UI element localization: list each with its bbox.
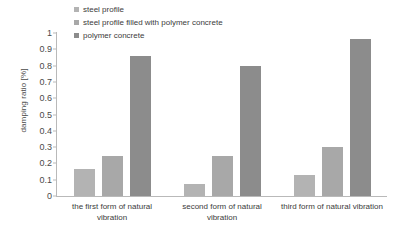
- legend-swatch-icon: [74, 7, 79, 12]
- bar: [212, 156, 233, 196]
- bar-group: [57, 33, 167, 196]
- bar: [74, 169, 95, 196]
- bar-chart: damping ratio [%] 10.90.80.70.60.50.40.3…: [0, 0, 394, 237]
- x-tick-label: third form of natural vibration: [277, 201, 387, 235]
- x-axis-line: [56, 196, 387, 197]
- legend-swatch-icon: [74, 33, 79, 38]
- x-tick-label: second form of natural vibration: [167, 201, 277, 235]
- bar-group: [277, 33, 387, 196]
- y-tick-label: 0.7: [39, 77, 52, 87]
- bar: [184, 184, 205, 196]
- y-axis-title: damping ratio [%]: [19, 26, 28, 176]
- y-tick-label: 0.8: [39, 61, 52, 71]
- y-tick-label: 0.4: [39, 126, 52, 136]
- bar: [102, 156, 123, 196]
- y-tick-label: 0: [47, 191, 52, 201]
- y-tick-label: 1: [47, 28, 52, 38]
- legend-label: steel profile filled with polymer concre…: [83, 18, 223, 27]
- x-tick-label: the first form of natural vibration: [57, 201, 167, 235]
- y-tick-label: 0.5: [39, 110, 52, 120]
- bar: [294, 175, 315, 196]
- legend-item[interactable]: steel profile: [74, 4, 223, 15]
- y-tick-label: 0.9: [39, 44, 52, 54]
- bar: [240, 66, 261, 196]
- plot-area: 10.90.80.70.60.50.40.30.20.10: [57, 33, 387, 196]
- bar: [350, 39, 371, 196]
- y-tick-label: 0.6: [39, 93, 52, 103]
- legend-item[interactable]: polymer concrete: [74, 30, 223, 41]
- y-tick-label: 0.2: [39, 158, 52, 168]
- x-axis-labels: the first form of natural vibrationsecon…: [57, 201, 387, 235]
- legend-item[interactable]: steel profile filled with polymer concre…: [74, 17, 223, 28]
- legend-label: polymer concrete: [83, 31, 144, 40]
- bar-group: [167, 33, 277, 196]
- y-tick-label: 0.3: [39, 142, 52, 152]
- y-tick-label: 0.1: [39, 175, 52, 185]
- legend-label: steel profile: [83, 5, 124, 14]
- legend-swatch-icon: [74, 20, 79, 25]
- bar: [322, 147, 343, 196]
- bar: [130, 56, 151, 196]
- legend: steel profilesteel profile filled with p…: [74, 4, 223, 43]
